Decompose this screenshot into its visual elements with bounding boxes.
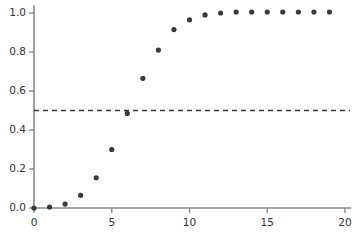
data-point — [78, 193, 83, 198]
data-point — [202, 12, 207, 17]
data-point — [109, 147, 114, 152]
y-tick-label: 0.2 — [9, 163, 26, 174]
data-point — [234, 9, 239, 14]
x-tick-label: 20 — [325, 217, 364, 228]
data-point — [140, 76, 145, 81]
y-tick-label: 1.0 — [9, 7, 26, 18]
data-point — [47, 204, 52, 209]
data-point — [156, 47, 161, 52]
data-point — [296, 9, 301, 14]
data-point — [171, 27, 176, 32]
data-point — [218, 10, 223, 15]
y-tick-label: 0.6 — [9, 85, 26, 96]
data-point — [249, 9, 254, 14]
y-tick-label: 0.4 — [9, 124, 26, 135]
axis-ticks — [29, 13, 345, 213]
plot-area — [0, 0, 364, 237]
data-point — [327, 9, 332, 14]
x-tick-label: 0 — [14, 217, 54, 228]
data-point — [187, 17, 192, 22]
data-point — [125, 111, 130, 116]
axes — [34, 5, 351, 208]
x-tick-label: 15 — [247, 217, 287, 228]
x-tick-label: 10 — [170, 217, 210, 228]
y-tick-label: 0.8 — [9, 46, 26, 57]
data-point — [280, 9, 285, 14]
x-tick-label: 5 — [92, 217, 132, 228]
scatter-chart: 0.00.20.40.60.81.0 05101520 — [0, 0, 364, 237]
data-point — [94, 175, 99, 180]
data-point — [311, 9, 316, 14]
data-point — [265, 9, 270, 14]
data-point — [31, 205, 36, 210]
y-tick-label: 0.0 — [9, 202, 26, 213]
data-point — [63, 202, 68, 207]
